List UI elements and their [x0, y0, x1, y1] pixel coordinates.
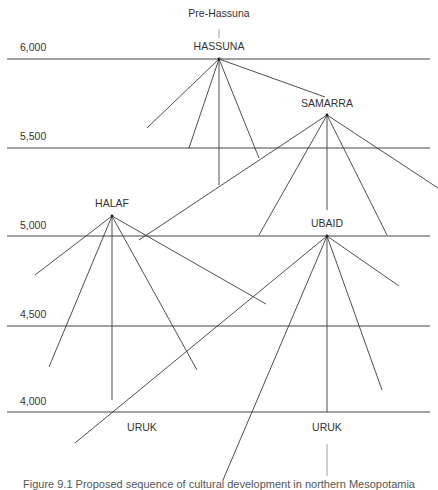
ubaid-node-dot	[326, 235, 329, 238]
axis-label-5000: 5,000	[20, 220, 46, 231]
node-label-ubaid: UBAID	[311, 218, 343, 229]
axis-label-4000: 4,000	[20, 396, 46, 407]
halaf-node-dot	[111, 215, 114, 218]
samarra-branches	[139, 115, 438, 240]
halaf-branches	[35, 216, 266, 400]
figure-caption: Figure 9.1 Proposed sequence of cultural…	[0, 478, 438, 490]
ubaid-branches	[75, 236, 399, 480]
node-label-pre-hassuna: Pre-Hassuna	[188, 8, 249, 19]
node-label-halaf: HALAF	[95, 198, 129, 209]
samarra-node-dot	[326, 114, 329, 117]
axis-label-4500: 4,500	[20, 309, 46, 320]
axis-label-6000: 6,000	[20, 42, 46, 53]
node-label-uruk-right: URUK	[312, 422, 342, 433]
hassuna-node-dot	[218, 58, 221, 61]
node-label-hassuna: HASSUNA	[194, 41, 245, 52]
axis-label-5500: 5,500	[20, 131, 46, 142]
node-label-uruk-left: URUK	[127, 422, 157, 433]
node-label-samarra: SAMARRA	[301, 98, 353, 109]
